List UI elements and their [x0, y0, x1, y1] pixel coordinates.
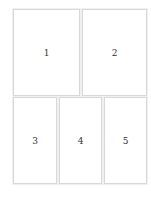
panel-2: 2 [82, 9, 147, 96]
panel-label: 2 [112, 48, 118, 58]
panel-5: 5 [104, 97, 147, 184]
panel-label: 4 [78, 136, 84, 146]
panel-4: 4 [59, 97, 102, 184]
panel-label: 5 [123, 136, 129, 146]
panel-label: 1 [44, 48, 50, 58]
panel-3: 3 [13, 97, 57, 184]
panel-label: 3 [32, 136, 38, 146]
panel-1: 1 [13, 9, 80, 96]
